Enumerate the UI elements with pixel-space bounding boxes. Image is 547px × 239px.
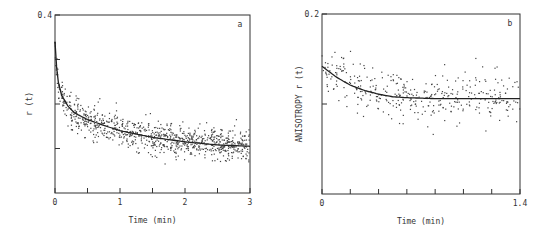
x-tick-label: 0 bbox=[53, 198, 58, 207]
x-tick-label: 0 bbox=[320, 199, 325, 208]
x-tick-label: 1.4 bbox=[513, 199, 528, 208]
plot-frame bbox=[55, 15, 250, 193]
x-tick-label: 1 bbox=[118, 198, 123, 207]
panel-b-plot: 01.40.2Time (min)ANISOTROPY r (t)b bbox=[295, 10, 527, 226]
x-tick-label: 2 bbox=[183, 198, 188, 207]
plot-frame bbox=[322, 14, 520, 194]
panel-a-plot: 01230.4Time (min)r (t)a bbox=[25, 11, 253, 225]
y-tick-label: 0.2 bbox=[305, 10, 320, 19]
figure: 01230.4Time (min)r (t)a 01.40.2Time (min… bbox=[0, 0, 547, 239]
fit-curve bbox=[322, 66, 520, 98]
scatter-points bbox=[54, 42, 249, 165]
y-axis-label: r (t) bbox=[25, 92, 34, 116]
x-axis-label: Time (min) bbox=[128, 216, 176, 225]
x-tick-label: 3 bbox=[248, 198, 253, 207]
x-axis-label: Time (min) bbox=[397, 217, 445, 226]
panel-label: b bbox=[508, 19, 513, 28]
panel-label: a bbox=[238, 20, 243, 29]
y-tick-label: 0.4 bbox=[38, 11, 53, 20]
y-axis-label: ANISOTROPY r (t) bbox=[295, 65, 304, 142]
scatter-points bbox=[321, 51, 520, 135]
